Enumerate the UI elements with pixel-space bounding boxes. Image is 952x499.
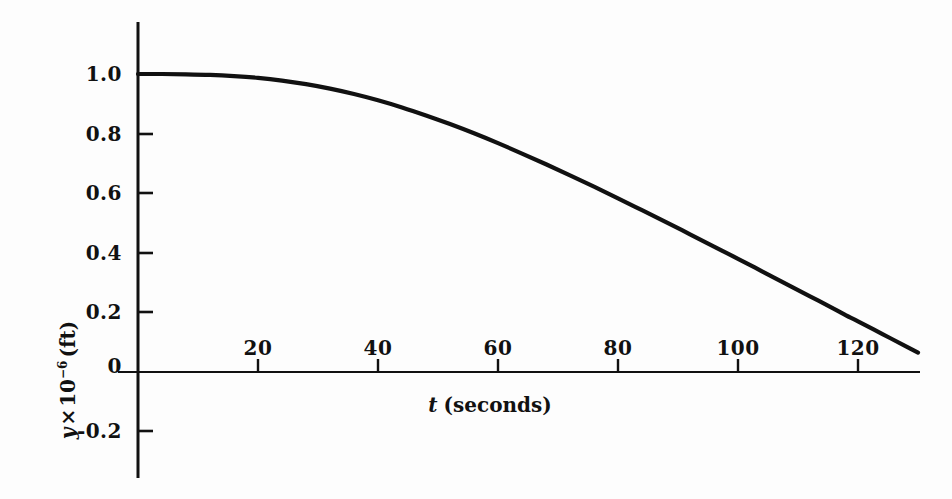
y-axis-exponent: −6 <box>56 361 70 379</box>
y-tick-label-1-0: 1.0 <box>58 64 122 84</box>
y-axis-variable: y <box>56 428 80 440</box>
y-tick-label-0-6: 0.6 <box>58 183 122 203</box>
plot-area <box>0 0 952 499</box>
x-tick-label-60: 60 <box>484 338 513 358</box>
x-axis-unit: (seconds) <box>444 393 552 417</box>
x-tick-label-120: 120 <box>836 338 879 358</box>
y-tick-label-0-4: 0.4 <box>58 243 122 263</box>
y-tick-label-0-2: 0.2 <box>58 302 122 322</box>
x-tick-label-40: 40 <box>364 338 393 358</box>
x-axis-variable: t <box>428 393 443 417</box>
y-axis-title: y×10−6(ft) <box>58 321 78 439</box>
y-axis-base: 10 <box>56 379 80 407</box>
x-axis-ticks <box>258 359 858 372</box>
x-tick-label-80: 80 <box>604 338 633 358</box>
y-axis-times-symbol: × <box>56 407 80 428</box>
x-tick-label-20: 20 <box>244 338 273 358</box>
y-axis-ticks <box>138 74 153 431</box>
y-axis-unit: (ft) <box>56 321 80 361</box>
figure-canvas: 1.0 0.8 0.6 0.4 0.2 0 -0.2 20 40 60 80 1… <box>0 0 952 499</box>
x-axis-title: t(seconds) <box>428 395 551 415</box>
data-series-curve <box>138 74 918 353</box>
y-tick-label-0-8: 0.8 <box>58 124 122 144</box>
x-tick-label-100: 100 <box>716 338 759 358</box>
